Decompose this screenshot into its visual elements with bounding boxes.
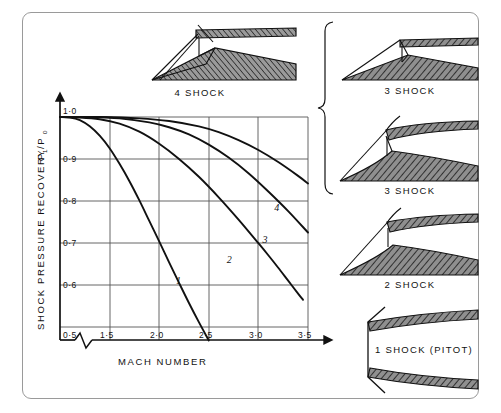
y-tick-label: 0·8 [63,196,77,206]
curve-labels: 1 2 3 4 [176,202,279,287]
y-tick-label: 0·6 [63,280,77,290]
diagram-3-shock-b: 3 SHOCK [340,116,478,196]
y-axis-title: SHOCK PRESSURE RECOVERY [35,149,46,330]
x-tick-label: 1·5 [100,330,114,340]
x-axis-title: MACH NUMBER [118,356,207,367]
figure-canvas: 1·0 0·9 0·8 0·7 0·6 0·5 1·5 2·0 2·5 3·0 … [0,0,501,413]
diagram-1-shock-pitot: 1 SHOCK (PITOT) [368,307,478,393]
curve-label-2: 2 [227,254,232,265]
diagram-4-shock: 4 SHOCK [152,25,296,98]
curve-1 [60,117,209,340]
x-axis-break-zigzag [75,333,92,348]
diagram-4-shock-label: 4 SHOCK [175,87,226,98]
curve-label-4: 4 [274,202,279,213]
y-tick-label: 0·7 [63,238,77,248]
x-tick-label: 2·0 [150,330,164,340]
curve-label-3: 3 [261,234,267,245]
curve-2 [60,117,303,300]
grid-vertical [110,117,308,340]
grouping-brace [318,22,333,194]
y-axis-symbol-sep: /P [35,137,46,149]
curve-4 [60,117,308,184]
x-tick-label: 3·0 [249,330,263,340]
diagram-3-shock-a: 3 SHOCK [342,38,478,96]
curve-label-1: 1 [176,275,181,286]
y-tick-label: 1·0 [63,106,77,116]
grid-horizontal [60,117,308,327]
y-axis-symbol-sub2: 0 [41,130,48,134]
diagram-3-shock-b-label: 3 SHOCK [385,185,436,196]
diagram-2-shock-label: 2 SHOCK [385,279,436,290]
x-tick-label: 3·5 [298,330,312,340]
y-tick-label: 0·9 [63,154,77,164]
y-axis-title-group: SHOCK PRESSURE RECOVERY P 1 /P 0 [35,130,48,330]
curves [60,117,308,341]
diagram-1-shock-pitot-label: 1 SHOCK (PITOT) [375,344,473,355]
y-tick-labels: 1·0 0·9 0·8 0·7 0·6 0·5 [63,106,77,340]
chart: 1·0 0·9 0·8 0·7 0·6 0·5 1·5 2·0 2·5 3·0 … [35,100,325,367]
diagram-3-shock-a-label: 3 SHOCK [385,85,436,96]
diagram-2-shock: 2 SHOCK [340,208,478,290]
y-tick-label: 0·5 [63,330,77,340]
